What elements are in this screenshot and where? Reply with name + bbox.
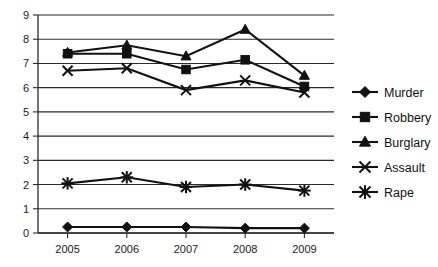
series-murder-diamond-marker xyxy=(240,223,250,233)
y-axis-tick-label: 4 xyxy=(23,130,29,142)
x-axis-tick-label: 2007 xyxy=(174,243,198,255)
series-burglary-triangle-marker xyxy=(240,24,250,33)
series-burglary-triangle-marker xyxy=(122,40,132,49)
series-robbery-square-marker xyxy=(182,65,191,74)
series-murder-diamond-marker xyxy=(122,222,132,232)
x-axis-tick-label: 2005 xyxy=(55,243,79,255)
chart-canvas: 012345678920052006200720082009MurderRobb… xyxy=(0,0,438,267)
series-robbery-square-marker xyxy=(241,56,250,65)
legend-label-murder: Murder xyxy=(384,86,424,100)
legend-murder-diamond-marker xyxy=(360,87,371,98)
x-axis-tick-label: 2009 xyxy=(292,243,316,255)
y-axis-tick-label: 7 xyxy=(23,57,29,69)
series-murder-diamond-marker xyxy=(63,222,73,232)
y-axis-tick-label: 9 xyxy=(23,9,29,21)
legend-label-rape: Rape xyxy=(384,186,414,200)
x-axis-tick-label: 2008 xyxy=(233,243,257,255)
y-axis-tick-label: 3 xyxy=(23,154,29,166)
y-axis-tick-label: 8 xyxy=(23,33,29,45)
line-chart: 012345678920052006200720082009MurderRobb… xyxy=(0,0,438,267)
series-murder-diamond-marker xyxy=(299,223,309,233)
y-axis-tick-label: 6 xyxy=(23,82,29,94)
legend-robbery-square-marker xyxy=(360,112,369,121)
x-axis-tick-label: 2006 xyxy=(115,243,139,255)
series-robbery-square-marker xyxy=(123,50,132,59)
y-axis-tick-label: 1 xyxy=(23,203,29,215)
y-axis-tick-label: 2 xyxy=(23,179,29,191)
legend-label-burglary: Burglary xyxy=(384,136,431,150)
series-murder-diamond-marker xyxy=(181,222,191,232)
legend-label-robbery: Robbery xyxy=(384,111,432,125)
y-axis-tick-label: 5 xyxy=(23,106,29,118)
y-axis-tick-label: 0 xyxy=(23,227,29,239)
legend-label-assault: Assault xyxy=(384,161,426,175)
